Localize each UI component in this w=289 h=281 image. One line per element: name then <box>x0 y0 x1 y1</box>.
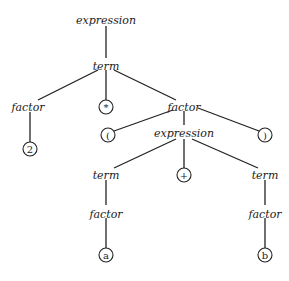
edge-expression-term-right <box>192 139 258 168</box>
tree-edges <box>30 26 265 248</box>
node-terminal-b: b <box>262 250 268 261</box>
node-expression-inner: expression <box>154 127 214 140</box>
node-terminal-2: 2 <box>27 144 33 155</box>
node-factor-b: factor <box>247 208 282 221</box>
node-term: term <box>93 60 120 73</box>
node-factor-right: factor <box>166 101 201 114</box>
node-factor-a: factor <box>88 208 123 221</box>
node-terminal-a: a <box>103 250 109 261</box>
node-terminal-lparen: ( <box>106 130 110 141</box>
terminal-circles <box>23 100 272 262</box>
node-terminal-plus: + <box>180 170 188 181</box>
node-factor-left: factor <box>10 101 45 114</box>
node-term-left: term <box>93 169 120 182</box>
edge-term-factor-right <box>114 70 176 100</box>
edge-term-factor-left <box>38 70 98 100</box>
node-terminal-rparen: ) <box>263 130 267 141</box>
node-term-right: term <box>252 169 279 182</box>
edge-expression-term-left <box>114 139 176 168</box>
node-terminal-star: * <box>104 102 109 113</box>
node-expression-root: expression <box>76 14 136 27</box>
parse-tree-diagram: expression term factor * factor 2 ( expr… <box>0 0 289 281</box>
node-labels: expression term factor * factor 2 ( expr… <box>10 14 282 261</box>
